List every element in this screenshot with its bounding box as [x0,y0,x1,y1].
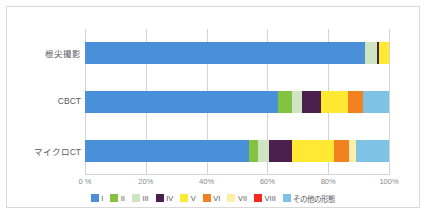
chart-legend: IIIIIIIVVVIVIIVIIIその他の形態 [7,191,419,205]
legend-item[interactable]: I [91,194,104,203]
legend-swatch-icon [254,194,262,202]
category-label: 根尖撮影 [7,47,81,59]
bar-segment[interactable] [321,91,348,113]
legend-label: V [191,194,196,203]
legend-item[interactable]: III [132,194,149,203]
legend-item[interactable]: VIII [254,194,276,203]
legend-item[interactable]: VI [203,194,221,203]
bar-segment[interactable] [85,42,365,64]
bar-segment[interactable] [302,91,320,113]
legend-label: I [101,194,103,203]
legend-swatch-icon [156,194,164,202]
category-label: マイクロCT [7,145,81,157]
legend-label: VI [213,194,220,203]
x-tick-label: 100% [379,177,398,186]
bar-segment[interactable] [85,140,249,162]
bar-segment[interactable] [356,140,389,162]
legend-item[interactable]: IV [156,194,174,203]
bar-row[interactable] [85,91,389,113]
legend-swatch-icon [227,194,235,202]
legend-label: IV [166,194,173,203]
bar-segment[interactable] [85,91,278,113]
x-tick-label: 80% [321,177,336,186]
category-axis: 根尖撮影CBCTマイクロCT [7,29,81,175]
x-tick-label: 20% [138,177,153,186]
legend-item[interactable]: VII [227,194,247,203]
bar-segment[interactable] [379,42,389,64]
legend-swatch-icon [203,194,211,202]
legend-swatch-icon [132,194,140,202]
bar-segment[interactable] [365,42,377,64]
legend-item[interactable]: II [110,194,125,203]
gridline-100 [389,29,390,175]
legend-label: II [121,194,125,203]
plot-area [85,29,389,175]
bar-segment[interactable] [348,91,363,113]
x-tick-label: 60% [260,177,275,186]
bar-segment[interactable] [269,140,292,162]
legend-swatch-icon [180,194,188,202]
bar-segment[interactable] [278,91,292,113]
bar-segment[interactable] [292,140,335,162]
legend-item[interactable]: その他の形態 [283,193,336,204]
bar-segment[interactable] [363,91,389,113]
legend-label: VII [238,194,247,203]
bar-segment[interactable] [292,91,303,113]
legend-swatch-icon [91,194,99,202]
bar-segment[interactable] [334,140,349,162]
x-tick-label: 40% [199,177,214,186]
legend-swatch-icon [110,194,118,202]
bar-row[interactable] [85,42,389,64]
bar-segment[interactable] [258,140,269,162]
x-tick-label: 0 % [79,177,92,186]
legend-label: III [142,194,148,203]
chart-frame: 根尖撮影CBCTマイクロCT 0 %20%40%60%80%100% IIIII… [6,6,420,208]
bar-row[interactable] [85,140,389,162]
legend-swatch-icon [283,194,291,202]
value-axis: 0 %20%40%60%80%100% [85,177,389,191]
category-label: CBCT [7,96,81,106]
legend-label: VIII [265,194,276,203]
bar-segment[interactable] [249,140,258,162]
legend-label: その他の形態 [293,193,335,204]
legend-item[interactable]: V [180,194,196,203]
plot-baseline [85,174,389,175]
